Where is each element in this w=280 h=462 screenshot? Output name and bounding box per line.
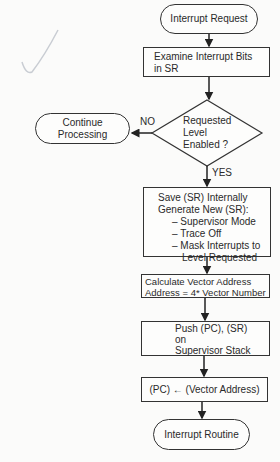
end-label: Interrupt Routine xyxy=(164,429,239,441)
push-line-3: Supervisor Stack xyxy=(175,345,269,356)
end-terminator: Interrupt Routine xyxy=(153,419,250,450)
examine-line-1: Examine Interrupt Bits xyxy=(154,51,259,63)
save-item-supervisor: – Supervisor Mode xyxy=(158,216,264,228)
save-item-trace: – Trace Off xyxy=(158,228,264,240)
save-item-mask: – Mask Interrupts to xyxy=(158,240,264,252)
start-label: Interrupt Request xyxy=(170,13,247,25)
check-mark-icon xyxy=(22,30,58,73)
examine-box: Examine Interrupt Bits in SR xyxy=(143,47,270,77)
save-sr-box: Save (SR) Internally Generate New (SR): … xyxy=(143,187,271,257)
yes-label: YES xyxy=(212,167,232,178)
start-terminator: Interrupt Request xyxy=(160,4,258,34)
decision-line-3: Enabled ? xyxy=(183,139,233,151)
calculate-vector-box: Calculate Vector Address Address = 4* Ve… xyxy=(141,274,270,298)
save-line-1: Save (SR) Internally xyxy=(158,192,264,204)
push-line-1: Push (PC), (SR) xyxy=(175,323,269,334)
no-label: NO xyxy=(140,116,155,127)
calc-line-1: Calculate Vector Address xyxy=(145,276,266,287)
decision-text: Requested Level Enabled ? xyxy=(183,115,233,151)
continue-line-1: Continue xyxy=(62,117,102,129)
save-line-2: Generate New (SR): xyxy=(158,204,264,216)
pc-label: (PC) ← (Vector Address) xyxy=(142,384,267,396)
examine-line-2: in SR xyxy=(154,63,259,75)
push-line-2: on xyxy=(175,334,269,345)
continue-processing-terminator: Continue Processing xyxy=(35,113,130,144)
save-item-level: Level Requested xyxy=(158,252,264,264)
decision-line-1: Requested xyxy=(183,115,233,127)
decision-line-2: Level xyxy=(183,127,233,139)
push-stack-box: Push (PC), (SR) on Supervisor Stack xyxy=(141,321,270,356)
continue-line-2: Processing xyxy=(58,129,107,141)
calc-line-2: Address = 4* Vector Number xyxy=(145,287,266,298)
pc-vector-box: (PC) ← (Vector Address) xyxy=(141,377,268,402)
